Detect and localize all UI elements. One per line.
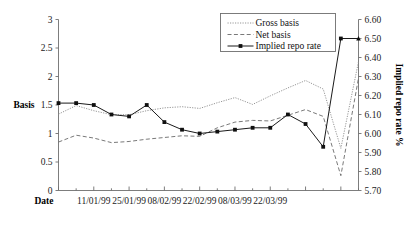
data-point-marker [339,37,343,41]
data-point-marker [110,113,114,117]
x-axis-tick-label: 22/03/99 [253,196,287,206]
data-series [57,36,361,176]
data-point-marker [321,145,325,149]
x-axis-tick-label: 25/01/99 [112,196,146,206]
data-point-marker [162,120,166,124]
right-axis-tick-label: 5.80 [365,167,382,177]
left-axis-tick-label: 3 [48,15,53,25]
data-point-marker [127,115,131,119]
x-axis-title: Date [35,196,54,206]
chart-figure: 00.511.522.535.705.805.906.006.106.206.3… [0,0,413,226]
data-point-marker [92,103,96,107]
data-point-marker [215,130,219,134]
legend-label-2: Net basis [256,30,291,40]
right-axis-tick-label: 6.60 [365,15,382,25]
data-point-marker [304,122,308,126]
series-line-gross-basis [59,62,359,149]
x-axis-tick-label: 08/02/99 [147,196,181,206]
legend-label-1: Gross basis [256,18,300,28]
right-axis-tick-label: 6.10 [365,110,382,120]
data-point-marker [180,128,184,132]
data-point-marker [74,101,78,105]
left-axis-tick-label: 1 [48,129,53,139]
legend-label-3: Implied repo rate [256,41,321,51]
data-point-marker [198,132,202,136]
legend-marker [239,44,243,48]
y-axis-title: Basis [13,100,34,110]
left-axis-tick-label: 0 [48,186,53,196]
data-point-marker [145,103,149,107]
left-axis-tick-label: 1.5 [41,100,53,110]
right-axis-tick-label: 5.70 [365,186,382,196]
series-line-implied-repo-rate [59,39,359,147]
right-axis-tick-label: 6.40 [365,53,382,63]
secondary-y-axis-title: Implied repo rate % [394,64,404,147]
x-axis-tick-label: 22/02/99 [183,196,217,206]
left-axis-tick-label: 0.5 [41,157,53,167]
data-point-marker [57,101,61,105]
right-axis-tick-label: 6.20 [365,91,382,101]
left-axis-tick-label: 2 [48,72,53,82]
data-point-marker [268,126,272,130]
line-chart: 00.511.522.535.705.805.906.006.106.206.3… [0,0,413,226]
data-point-marker [286,113,290,117]
data-point-marker [251,126,255,130]
series-line-net-basis [59,78,359,175]
data-point-marker [233,128,237,132]
x-axis-tick-label: 08/03/99 [218,196,252,206]
chart-legend: Gross basisNet basisImplied repo rate [221,14,336,52]
right-axis-tick-label: 6.50 [365,34,382,44]
x-axis-tick-label: 11/01/99 [77,196,111,206]
right-axis-tick-label: 6.00 [365,129,382,139]
right-axis-tick-label: 6.30 [365,72,382,82]
left-axis-tick-label: 2.5 [41,43,53,53]
right-axis-tick-label: 5.90 [365,148,382,158]
axis-labels: 00.511.522.535.705.805.906.006.106.206.3… [13,15,404,206]
